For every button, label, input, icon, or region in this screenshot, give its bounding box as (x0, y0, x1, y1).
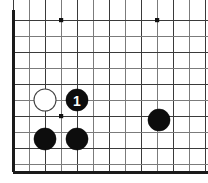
black-stone[interactable] (34, 128, 56, 150)
go-board-diagram: 1 (0, 0, 208, 183)
stone-white[interactable] (34, 89, 56, 111)
stone-black[interactable] (34, 128, 56, 150)
star-point (59, 18, 63, 22)
stone-move-number-label: 1 (73, 93, 81, 109)
black-stone[interactable] (66, 128, 88, 150)
stone-black[interactable] (66, 128, 88, 150)
go-board-canvas: 1 (0, 0, 208, 183)
black-stone[interactable] (148, 109, 170, 131)
board-stones: 1 (34, 89, 170, 150)
white-stone[interactable] (34, 89, 56, 111)
stone-black[interactable]: 1 (66, 89, 88, 111)
star-point (155, 18, 159, 22)
stone-black[interactable] (148, 109, 170, 131)
star-point (59, 114, 63, 118)
